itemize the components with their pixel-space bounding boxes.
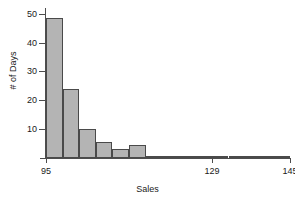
histogram-bar: [229, 156, 246, 158]
histogram-bar: [63, 89, 80, 158]
histogram-bar: [195, 156, 212, 158]
y-axis-tick-label: 30: [27, 67, 37, 76]
histogram-bar: [212, 156, 229, 158]
histogram-bar: [129, 145, 146, 158]
y-axis-tick-label: 10: [27, 125, 37, 134]
x-axis-tick-label: 129: [204, 167, 219, 176]
x-axis-tick: [46, 158, 47, 163]
histogram-bar: [162, 156, 179, 158]
y-axis-title: # of Days: [9, 41, 18, 101]
y-axis-tick: [39, 100, 45, 101]
histogram-bar: [245, 156, 262, 158]
histogram-bar: [96, 142, 113, 158]
x-axis-tick: [212, 158, 213, 163]
x-axis-line: [40, 158, 290, 159]
x-axis-tick-label: 145: [282, 167, 295, 176]
y-axis-tick: [39, 14, 45, 15]
plot-area: [46, 8, 290, 158]
bars-layer: [46, 8, 290, 158]
x-axis-title: Sales: [0, 185, 295, 194]
y-axis-tick-label: 20: [27, 96, 37, 105]
histogram-bar: [179, 156, 196, 158]
y-axis-tick: [39, 129, 45, 130]
y-axis-tick-label: 50: [27, 10, 37, 19]
y-axis-tick: [39, 43, 45, 44]
y-axis-tick: [39, 71, 45, 72]
x-axis-tick: [290, 158, 291, 163]
histogram-bar: [46, 18, 63, 158]
histogram-chart: 1020304050 95129145 # of Days Sales: [0, 0, 295, 207]
histogram-bar: [79, 129, 96, 158]
histogram-bar: [146, 156, 163, 158]
histogram-bar: [278, 156, 290, 158]
y-axis-tick-label: 40: [27, 39, 37, 48]
x-axis-tick-label: 95: [41, 167, 51, 176]
histogram-bar: [262, 156, 279, 158]
histogram-bar: [112, 149, 129, 158]
